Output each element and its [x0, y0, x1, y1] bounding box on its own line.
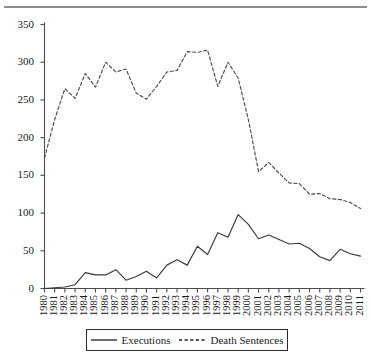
x-axis-tick-label: 2010	[344, 295, 354, 316]
y-axis-tick-label: 50	[2, 245, 34, 256]
legend-swatch-dashed	[179, 336, 205, 344]
y-axis-tick-label: 350	[2, 19, 34, 30]
x-axis-tick-label: 1990	[140, 295, 150, 316]
x-axis-tick-label: 2005	[293, 295, 303, 316]
x-axis-tick-label: 2011	[355, 295, 365, 316]
chart-legend: ExecutionsDeath Sentences	[86, 329, 288, 351]
x-axis-tick-label: 1995	[191, 295, 201, 316]
y-axis-tick-label: 200	[2, 132, 34, 143]
y-axis-tick-label: 0	[2, 283, 34, 294]
y-axis-tick-label: 150	[2, 169, 34, 180]
legend-item-executions: Executions	[91, 335, 171, 346]
legend-item-death-sentences: Death Sentences	[179, 335, 283, 346]
chart-series	[45, 50, 361, 288]
legend-label: Executions	[122, 335, 171, 346]
y-axis-tick-label: 250	[2, 94, 34, 105]
y-axis-tick-label: 100	[2, 207, 34, 218]
y-axis-tick-label: 300	[2, 56, 34, 67]
chart-axes	[41, 23, 365, 293]
series-line-executions	[45, 215, 361, 289]
x-axis-tick-label: 2000	[242, 295, 252, 316]
legend-swatch-solid	[91, 336, 117, 344]
x-axis-tick-label: 1985	[89, 295, 99, 316]
x-axis-tick-label: 1980	[39, 295, 49, 316]
chart-figure: 050100150200250300350 198019811982198319…	[0, 0, 371, 358]
series-line-death-sentences	[45, 50, 361, 208]
legend-label: Death Sentences	[210, 335, 283, 346]
